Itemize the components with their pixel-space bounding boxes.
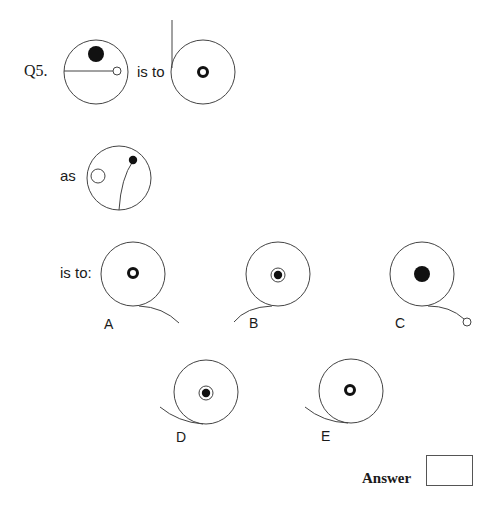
black-dot xyxy=(88,46,104,62)
option-c[interactable] xyxy=(390,242,471,326)
black-dot xyxy=(414,266,430,282)
black-dot xyxy=(129,156,137,164)
figure-2 xyxy=(171,20,235,104)
small-open-circle xyxy=(463,318,471,326)
option-d[interactable] xyxy=(160,360,238,424)
open-circle xyxy=(91,169,105,183)
curved-line xyxy=(119,161,133,210)
tail-line xyxy=(428,306,464,319)
question-page: Q5. is to as is to: A B C D E Answer xyxy=(0,0,500,506)
tail-line xyxy=(160,407,203,424)
outer-circle xyxy=(87,146,151,210)
thick-ring xyxy=(199,68,208,77)
option-e[interactable] xyxy=(305,359,383,423)
outer-circle xyxy=(101,242,165,306)
option-b[interactable] xyxy=(234,242,310,322)
tail-line xyxy=(234,306,272,322)
tail-line xyxy=(139,306,179,323)
figure-1 xyxy=(64,40,128,104)
figure-3 xyxy=(87,146,151,210)
small-open-circle xyxy=(113,67,121,75)
thick-ring xyxy=(129,269,138,278)
outer-circle xyxy=(171,40,235,104)
black-dot xyxy=(274,271,282,279)
thick-ring xyxy=(346,386,355,395)
option-a[interactable] xyxy=(101,242,179,323)
black-dot xyxy=(202,389,210,397)
outer-circle xyxy=(319,359,383,423)
tail-line xyxy=(305,407,348,423)
